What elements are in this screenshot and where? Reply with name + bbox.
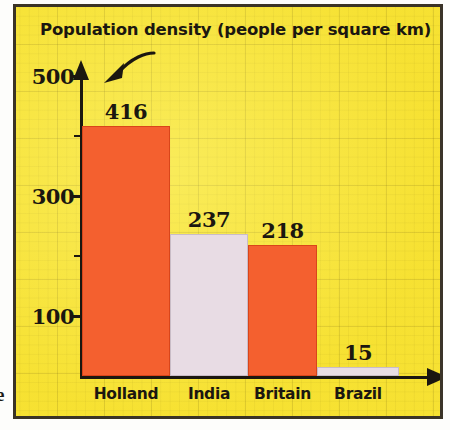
- bar-india: [170, 234, 248, 376]
- scanned-page: e Population density (people per square …: [0, 0, 450, 430]
- page-margin-partial-text: e: [0, 382, 14, 408]
- category-label-britain: Britain: [254, 385, 311, 403]
- bar-value-label-britain: 218: [261, 218, 303, 243]
- bar-value-label-india: 237: [188, 207, 230, 232]
- bars-container: 41623721815: [16, 7, 443, 376]
- chart-frame: Population density (people per square km…: [13, 4, 443, 419]
- x-axis-line: [80, 376, 430, 379]
- category-label-holland: Holland: [94, 385, 159, 403]
- bar-value-label-holland: 416: [105, 99, 147, 124]
- category-label-brazil: Brazil: [334, 385, 382, 403]
- bar-holland: [82, 126, 170, 376]
- bar-brazil: [317, 367, 399, 376]
- bar-britain: [248, 245, 317, 376]
- bar-value-label-brazil: 15: [344, 340, 372, 365]
- category-label-india: India: [188, 385, 230, 403]
